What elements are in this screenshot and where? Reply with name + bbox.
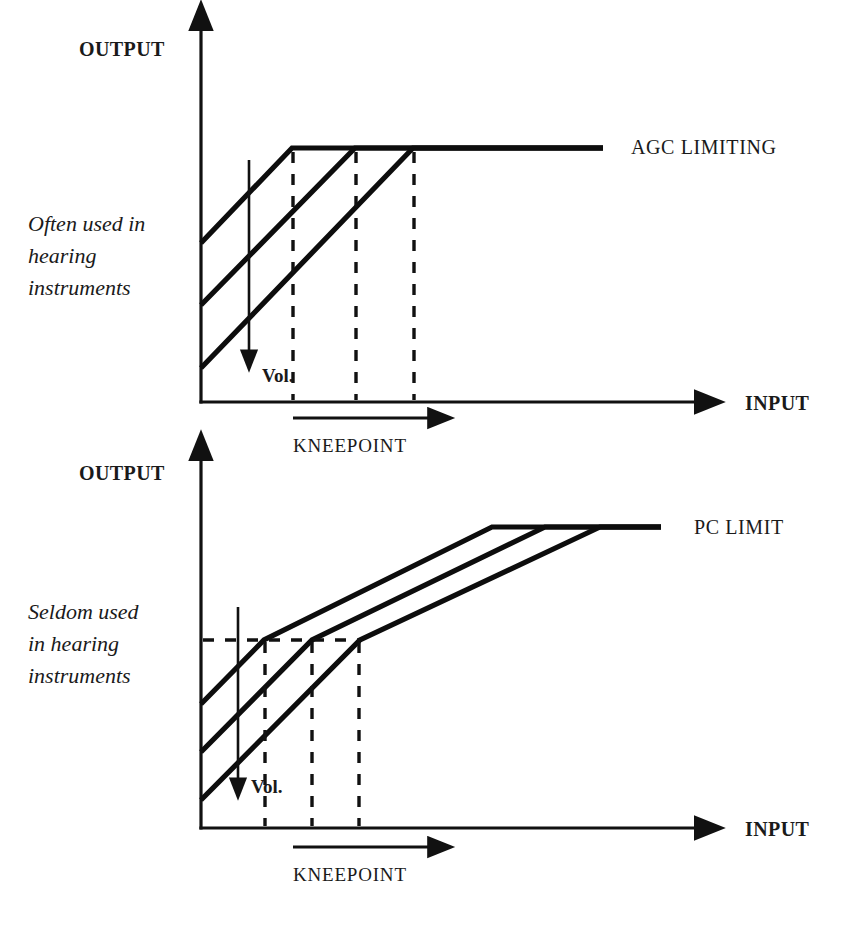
- agc-curve-label: AGC LIMITING: [631, 136, 777, 158]
- pc-y-axis-label: OUTPUT: [79, 462, 165, 484]
- agc-annotation-line-1: Often used in: [28, 211, 145, 236]
- agc-annotation-line-3: instruments: [28, 275, 131, 300]
- agc-kneepoint-label: KNEEPOINT: [293, 435, 407, 456]
- pc-volume-label: Vol.: [251, 776, 283, 797]
- agc-y-axis-label: OUTPUT: [79, 38, 165, 60]
- agc-annotation-line-2: hearing: [28, 243, 96, 268]
- pc-curve-volume-1: [201, 527, 661, 704]
- pc-x-axis-label: INPUT: [745, 818, 809, 840]
- io-curves-diagram: OUTPUT INPUT AGC LIMITING KNEEPOINT Vol.…: [0, 0, 857, 934]
- pc-annotation-line-2: in hearing: [28, 631, 119, 656]
- pc-annotation-line-3: instruments: [28, 663, 131, 688]
- pc-kneepoint-label: KNEEPOINT: [293, 864, 407, 885]
- chart-pc-limit: OUTPUT INPUT PC LIMIT KNEEPOINT Vol. Sel…: [28, 458, 809, 885]
- pc-curve-label: PC LIMIT: [694, 516, 784, 538]
- chart-agc-limiting: OUTPUT INPUT AGC LIMITING KNEEPOINT Vol.…: [28, 28, 809, 456]
- agc-x-axis-label: INPUT: [745, 392, 809, 414]
- pc-annotation-line-1: Seldom used: [28, 599, 140, 624]
- agc-volume-label: Vol.: [262, 365, 294, 386]
- figure-root: OUTPUT INPUT AGC LIMITING KNEEPOINT Vol.…: [0, 0, 857, 934]
- agc-curve-volume-2: [201, 148, 603, 305]
- pc-curve-volume-3: [201, 527, 661, 800]
